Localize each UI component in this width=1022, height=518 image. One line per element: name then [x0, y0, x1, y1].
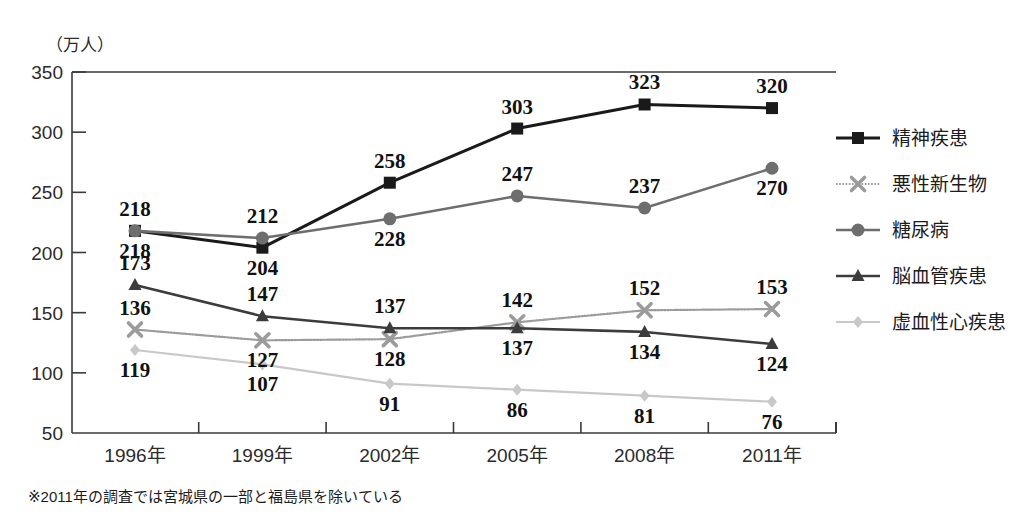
chart-background: [0, 0, 1022, 518]
data-point-label: 218: [119, 197, 151, 221]
y-axis-unit-label: （万人）: [46, 36, 114, 55]
data-point-label: 152: [629, 276, 661, 300]
data-point-marker: [383, 212, 396, 225]
data-point-label: 153: [756, 275, 788, 299]
data-point-label: 212: [247, 204, 279, 228]
legend-item-label: 悪性新生物: [892, 174, 987, 195]
data-point-label: 81: [634, 404, 655, 428]
x-axis-tick-label: 1999年: [232, 445, 293, 466]
line-chart: （万人） 501001502002503003501996年1999年2002年…: [0, 0, 1022, 518]
data-point-label: 270: [756, 176, 788, 200]
legend-item-label: 糖尿病: [892, 220, 949, 241]
data-point-marker: [639, 98, 651, 110]
x-axis-tick-label: 2008年: [614, 445, 675, 466]
chart-container: （万人） 501001502002503003501996年1999年2002年…: [0, 0, 1022, 518]
data-point-label: 247: [501, 162, 533, 186]
data-point-label: 134: [629, 340, 661, 364]
x-axis-tick-label: 1996年: [104, 445, 165, 466]
y-axis-tick-label: 350: [31, 62, 63, 83]
data-point-label: 128: [374, 347, 406, 371]
data-point-label: 119: [120, 358, 150, 382]
data-point-marker: [129, 224, 142, 237]
y-axis-tick-label: 150: [31, 303, 63, 324]
data-point-marker: [256, 232, 269, 245]
data-point-label: 303: [501, 95, 533, 119]
data-point-label: 137: [374, 294, 406, 318]
data-point-label: 237: [629, 174, 661, 198]
y-axis-tick-label: 300: [31, 122, 63, 143]
chart-footnote: ※2011年の調査では宮城県の一部と福島県を除いている: [28, 488, 403, 505]
data-point-marker: [384, 177, 396, 189]
data-point-label: 136: [119, 296, 151, 320]
legend-item-label: 脳血管疾患: [892, 266, 987, 287]
y-axis-tick-label: 50: [42, 423, 63, 444]
y-axis-tick-label: 250: [31, 182, 63, 203]
data-point-label: 142: [501, 288, 533, 312]
legend-item-label: 精神疾患: [892, 128, 968, 149]
data-point-marker: [511, 189, 524, 202]
y-axis-tick-label: 200: [31, 243, 63, 264]
legend-marker: [852, 132, 864, 144]
data-point-label: 258: [374, 149, 406, 173]
legend-marker: [852, 224, 865, 237]
data-point-marker: [511, 123, 523, 135]
data-point-label: 147: [247, 282, 279, 306]
data-point-label: 320: [756, 74, 788, 98]
data-point-label: 173: [119, 251, 151, 275]
y-axis-tick-label: 100: [31, 363, 63, 384]
data-point-label: 91: [379, 392, 400, 416]
data-point-label: 127: [247, 348, 279, 372]
x-axis-tick-label: 2002年: [359, 445, 420, 466]
legend-item-label: 虚血性心疾患: [892, 312, 1006, 333]
data-point-marker: [638, 201, 651, 214]
data-point-label: 323: [629, 70, 661, 94]
data-point-label: 228: [374, 227, 406, 251]
data-point-label: 137: [501, 336, 533, 360]
data-point-label: 76: [762, 410, 783, 434]
data-point-label: 107: [247, 372, 279, 396]
data-point-label: 124: [756, 352, 788, 376]
x-axis-tick-label: 2005年: [487, 445, 548, 466]
data-point-label: 86: [507, 398, 528, 422]
x-axis-tick-label: 2011年: [742, 445, 802, 466]
data-point-marker: [766, 162, 779, 175]
data-point-label: 204: [247, 256, 279, 280]
data-point-marker: [766, 102, 778, 114]
